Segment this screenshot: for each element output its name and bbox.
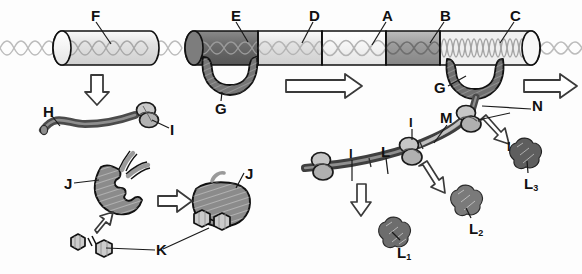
- label-L3-subscript: 3: [533, 183, 538, 193]
- label-L1-base: L: [397, 244, 406, 261]
- label-I-upper-right: I: [507, 140, 511, 153]
- chromatin-fiber-main: [185, 31, 540, 65]
- label-N: N: [532, 98, 543, 113]
- arrow-down-L2: [419, 161, 445, 193]
- label-K: K: [156, 242, 167, 257]
- label-L1: L1: [397, 245, 411, 262]
- folded-protein-L3: [510, 138, 542, 168]
- label-F: F: [91, 8, 100, 23]
- chromatin-segment-A: [322, 31, 386, 65]
- ribosome-I-on-mrna-1: [312, 153, 334, 181]
- label-G-left: G: [215, 101, 227, 116]
- label-L3: L3: [524, 176, 538, 193]
- ribosome-I-upper: [137, 103, 159, 128]
- label-L2-subscript: 2: [478, 228, 483, 238]
- label-B: B: [440, 8, 451, 23]
- diagram-artwork: [0, 0, 582, 274]
- label-J-left: J: [64, 176, 72, 191]
- label-M: M: [440, 110, 453, 125]
- label-I-upper: I: [170, 122, 174, 137]
- chromatin-segment-E: [185, 31, 258, 65]
- label-D: D: [309, 8, 320, 23]
- arrow-down-F: [85, 75, 109, 105]
- label-L2-base: L: [469, 220, 478, 237]
- label-E: E: [231, 8, 241, 23]
- arrow-up-K: [95, 212, 113, 233]
- arrow-right-J: [158, 190, 192, 212]
- label-L1-subscript: 1: [406, 252, 411, 262]
- chromatin-segment-B: [386, 31, 440, 65]
- label-A: A: [382, 8, 393, 23]
- label-L: L: [381, 144, 390, 159]
- label-C: C: [510, 8, 521, 23]
- label-L3-base: L: [524, 175, 533, 192]
- label-I-mid: I: [409, 116, 413, 129]
- chromatin-segment-C: [440, 31, 540, 65]
- folded-protein-L2: [451, 185, 483, 215]
- enzyme-J-right: [193, 173, 250, 230]
- enzyme-J-left: [95, 151, 150, 214]
- label-I-left: I: [349, 147, 353, 160]
- figure-canvas: F E D A B C G G H I J J K I L I M N I L1…: [0, 0, 582, 274]
- label-G-right: G: [434, 80, 446, 95]
- label-H: H: [43, 104, 54, 119]
- substrate-bond-marks: [88, 236, 96, 246]
- label-J-right: J: [245, 166, 253, 181]
- label-L2: L2: [469, 221, 483, 238]
- arrow-down-L1: [351, 184, 371, 216]
- arrow-right-middle: [286, 74, 362, 98]
- chromatin-segment-D: [258, 31, 322, 65]
- nascent-strand-H: [40, 115, 135, 135]
- substrate-K-hexagon-1: [71, 234, 85, 250]
- arrow-right-far: [524, 74, 577, 98]
